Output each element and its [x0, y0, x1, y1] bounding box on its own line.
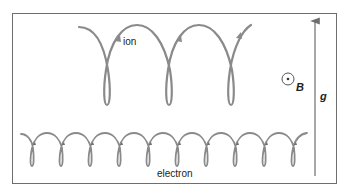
- electron-trajectory: [21, 133, 307, 166]
- magnetic-field-out-of-page-icon: [282, 73, 294, 85]
- magnetic-field-label: B: [296, 81, 304, 93]
- electron-label: electron: [157, 168, 193, 179]
- diagram-canvas: ion electron B g: [0, 0, 355, 195]
- diagram-svg: [0, 0, 355, 195]
- gravity-label: g: [320, 90, 327, 102]
- ion-trajectory: [79, 25, 251, 105]
- ion-label: ion: [123, 36, 136, 47]
- electron-direction-arrows: [33, 142, 297, 145]
- diagram-frame: [13, 14, 337, 184]
